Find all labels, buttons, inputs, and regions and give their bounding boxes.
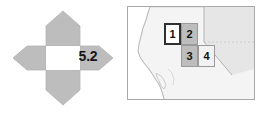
arrow-north-icon (46, 11, 80, 46)
rose-value-label: 5.2 (73, 46, 103, 66)
arrow-south-icon (46, 70, 80, 105)
figure-root: 5.2 1 2 3 4 (0, 0, 263, 115)
map-cell-4[interactable]: 4 (198, 45, 215, 67)
map-cell-1[interactable]: 1 (164, 23, 181, 45)
arrow-west-icon (13, 46, 46, 70)
map-cell-3[interactable]: 3 (181, 45, 198, 67)
map-cell-2[interactable]: 2 (181, 23, 198, 45)
locator-map-panel: 1 2 3 4 (127, 6, 255, 100)
compass-rose-panel: 5.2 (0, 0, 120, 115)
